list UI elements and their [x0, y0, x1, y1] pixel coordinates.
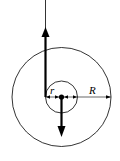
inner-right-dimension: [64, 95, 77, 98]
diagram-canvas: r R: [0, 0, 120, 161]
up-force-arrow: [42, 0, 50, 97]
outer-radius-label: R: [88, 84, 96, 96]
inner-radius-label: r: [50, 84, 55, 96]
center-dot: [59, 94, 64, 99]
down-force-arrow: [58, 97, 66, 137]
